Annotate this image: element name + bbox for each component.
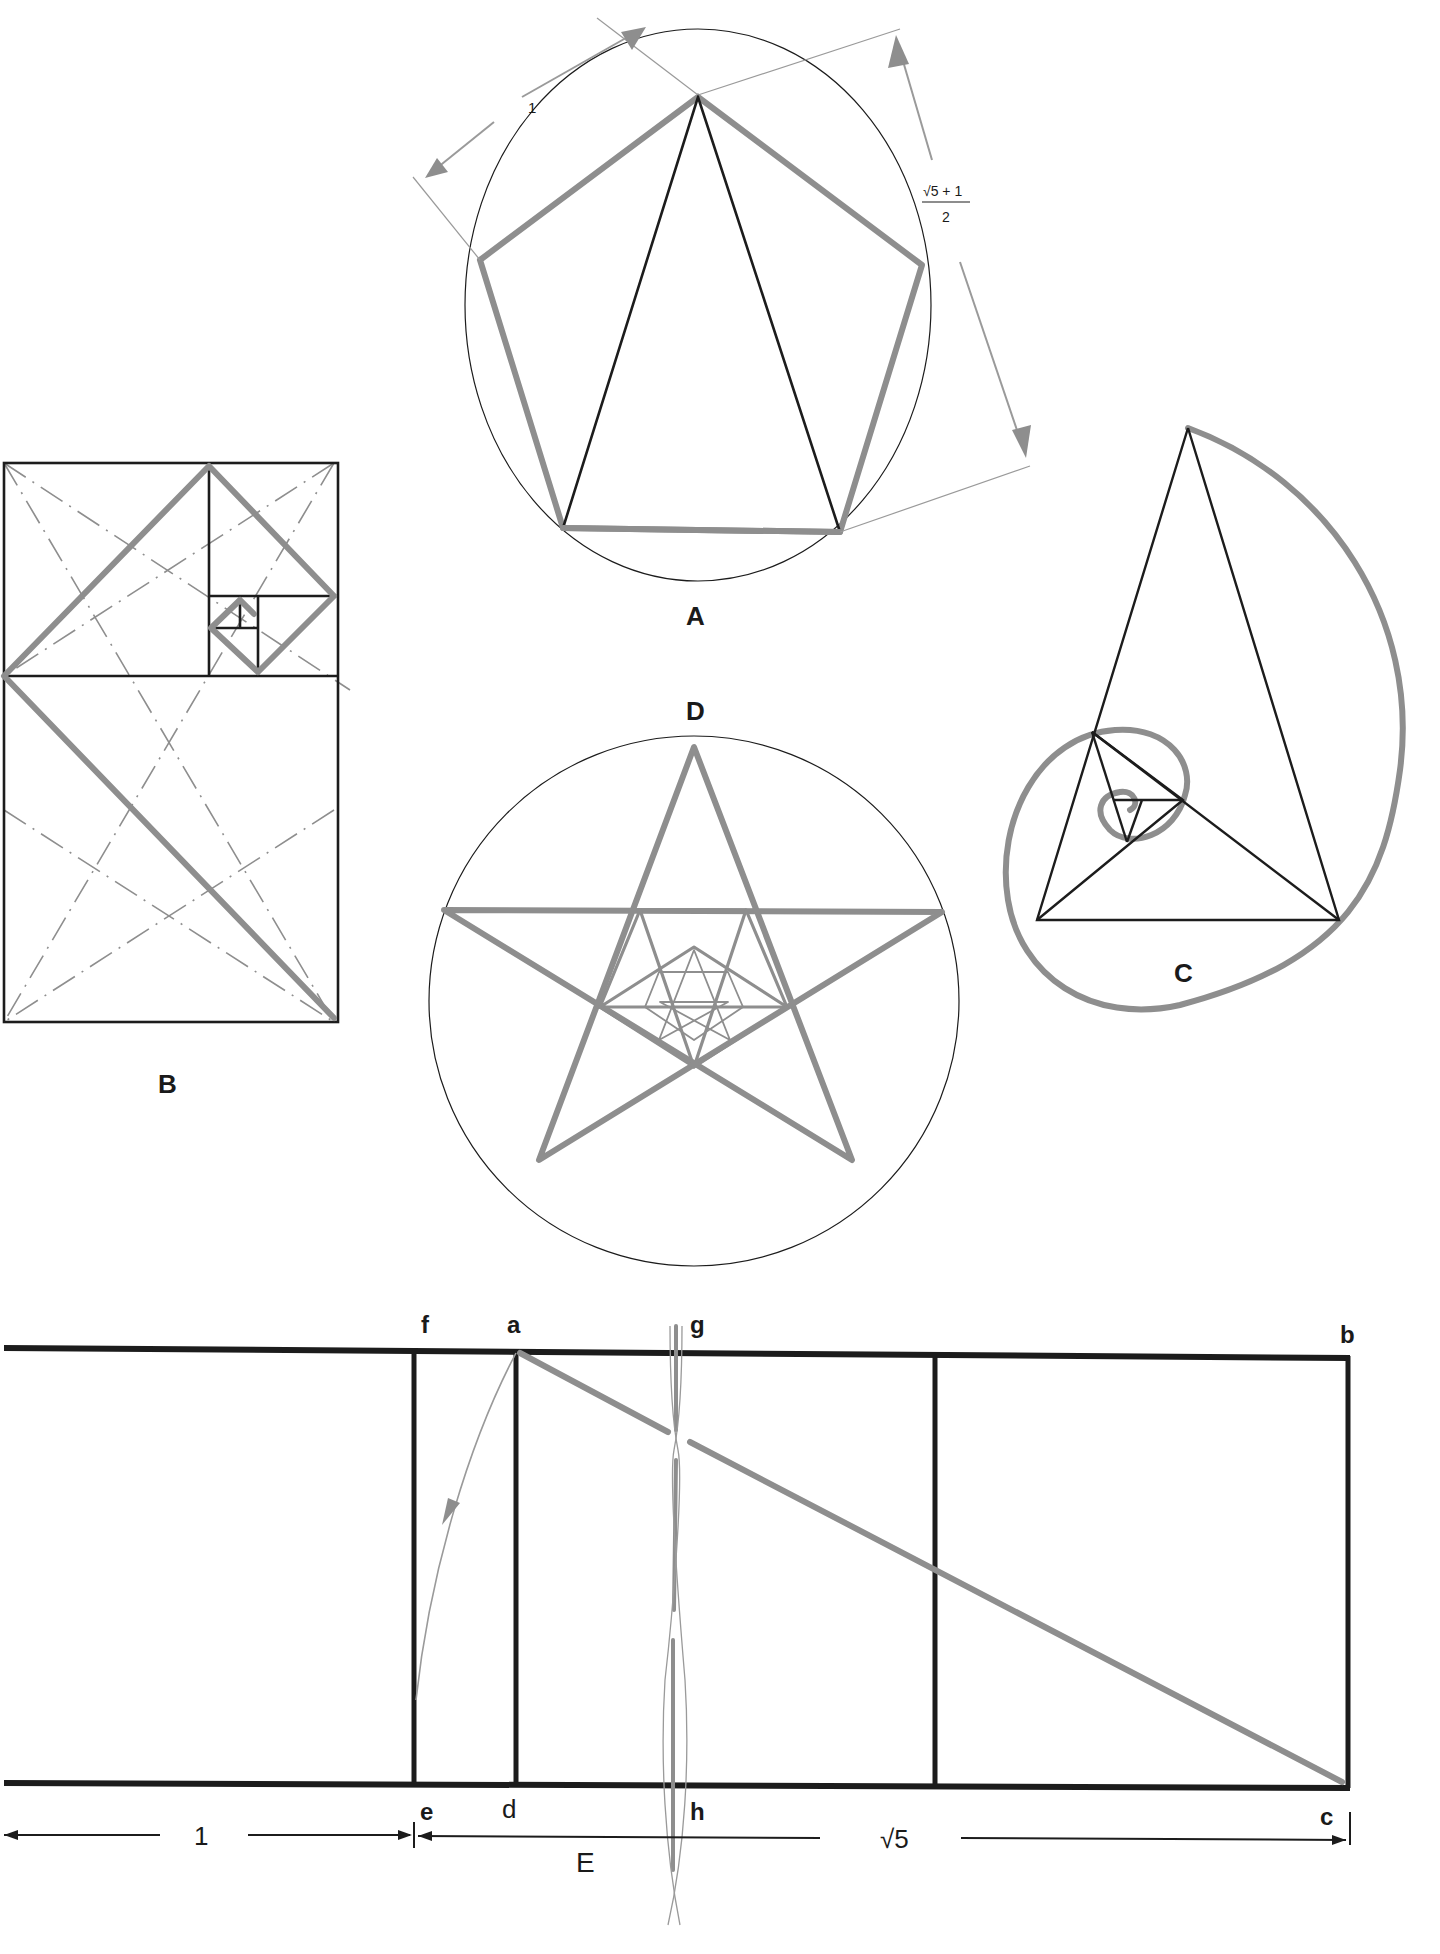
dimension-label-1: 1 (528, 99, 536, 116)
dimension-label-phi-numerator: √5 + 1 (923, 183, 962, 199)
triangle-base-a (563, 528, 840, 532)
panel-d: D (429, 696, 959, 1266)
panel-c: C (1006, 428, 1403, 1009)
golden-ratio-figure: 1 √5 + 1 2 A B (0, 0, 1440, 1954)
dim-arrow-1-top (522, 30, 640, 97)
panel-b: B (4, 463, 350, 1099)
golden-spiral-c (1006, 428, 1403, 1009)
point-label-e: e (420, 1798, 433, 1825)
point-label-a: a (507, 1311, 521, 1338)
point-label-f: f (421, 1311, 430, 1338)
point-label-c: c (1320, 1803, 1333, 1830)
point-label-h: h (690, 1798, 705, 1825)
dim-arrow-phi-bottom (960, 262, 1022, 445)
dimension-label-1-e: 1 (194, 1821, 208, 1851)
arc-a-to-e (416, 1353, 516, 1700)
dimension-label-phi-denominator: 2 (942, 209, 950, 225)
point-label-g: g (690, 1311, 705, 1338)
circle-d (429, 736, 959, 1266)
golden-triangle-a (563, 97, 840, 532)
panel-label-e: E (576, 1847, 595, 1878)
pentagon-a (480, 97, 922, 532)
panel-label-b: B (158, 1069, 177, 1099)
panel-e: 1 √5 f a g b e d h c E (4, 1311, 1355, 1925)
panel-a: 1 √5 + 1 2 A (413, 18, 1031, 631)
panel-label-a: A (686, 601, 705, 631)
point-label-d: d (502, 1794, 516, 1824)
diagonal-a-c (520, 1353, 668, 1432)
dimension-label-sqrt5: √5 (880, 1824, 909, 1854)
panel-label-c: C (1174, 958, 1193, 988)
panel-label-d: D (686, 696, 705, 726)
point-label-b: b (1340, 1321, 1355, 1348)
